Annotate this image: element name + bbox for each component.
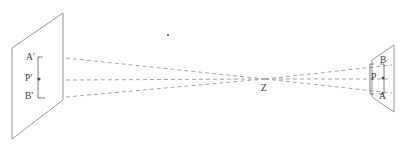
- stray-dot: [167, 34, 169, 36]
- p-point: [382, 77, 385, 80]
- optics-figure: A' P' B' Z B P A: [0, 0, 400, 151]
- label-z: Z: [261, 84, 267, 94]
- label-a-prime: A': [26, 53, 35, 63]
- object-height-bracket: [38, 57, 45, 98]
- label-b: B: [380, 56, 387, 66]
- label-p: P: [371, 73, 376, 83]
- figure-canvas: [0, 0, 400, 151]
- label-a: A: [379, 92, 386, 102]
- p-prime-point: [38, 78, 41, 81]
- object-plane: [12, 13, 63, 139]
- label-b-prime: B': [25, 92, 33, 102]
- ray-p-segment-left: [66, 79, 265, 80]
- ray-a-segment-left: [66, 58, 265, 79]
- label-p-prime: P': [25, 74, 32, 84]
- ray-b-segment-left: [66, 79, 265, 97]
